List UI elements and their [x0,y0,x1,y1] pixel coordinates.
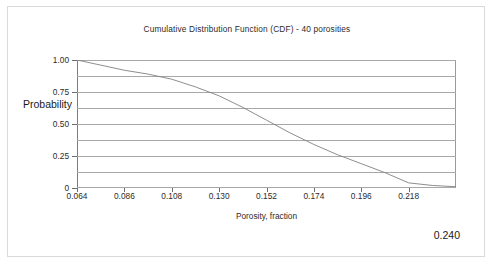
cdf-curve [77,60,456,188]
y-axis-tick [72,60,77,61]
x-axis-tick-label: 0.108 [147,191,197,201]
x-axis-tick-label: 0.174 [289,191,339,201]
x-axis-tick-label: 0.196 [336,191,386,201]
cdf-curve-path [77,60,456,187]
y-axis-tick [72,92,77,93]
y-axis-tick-label: 0.50 [23,119,69,129]
y-axis-title: Probability [8,98,72,110]
y-axis-tick [72,124,77,125]
y-axis-tick-label: 1.00 [23,55,69,65]
y-axis-tick-label: 0.25 [23,151,69,161]
x-axis-tick-label: 0.152 [242,191,292,201]
y-axis-tick [72,156,77,157]
x-axis-tick-label: 0.218 [384,191,434,201]
trailing-value-label: 0.240 [400,229,460,241]
y-axis-tick-label: 0.75 [23,87,69,97]
x-axis-tick-label: 0.130 [194,191,244,201]
plot-area [77,60,456,188]
chart-page: Cumulative Distribution Function (CDF) -… [0,0,494,266]
chart-title: Cumulative Distribution Function (CDF) -… [0,24,494,34]
x-axis-tick-label: 0.064 [52,191,102,201]
x-axis-title: Porosity, fraction [77,211,456,221]
x-axis-tick-label: 0.086 [99,191,149,201]
